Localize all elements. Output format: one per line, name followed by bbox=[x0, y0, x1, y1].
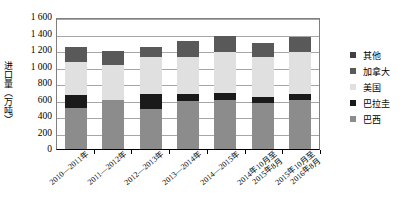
bar-segment[interactable] bbox=[289, 100, 311, 149]
legend-label: 加拿大 bbox=[363, 65, 390, 78]
x-axis-label-line: 2011—2012年 bbox=[86, 150, 128, 188]
legend-swatch-icon bbox=[350, 116, 356, 122]
x-axis-label-line: 2010—2011年 bbox=[48, 150, 90, 188]
stacked-bar[interactable] bbox=[140, 19, 162, 149]
legend-item[interactable]: 其他 bbox=[350, 47, 408, 63]
stacked-bar[interactable] bbox=[177, 19, 199, 149]
stacked-bar[interactable] bbox=[252, 19, 274, 149]
legend: 其他加拿大美国巴拉圭巴西 bbox=[350, 47, 408, 127]
y-axis-tick-label: 0 bbox=[47, 145, 52, 155]
bar-group bbox=[57, 19, 319, 149]
stacked-bar[interactable] bbox=[214, 19, 236, 149]
bar-segment[interactable] bbox=[65, 62, 87, 95]
x-axis-label-line: 2013—2014年 bbox=[161, 150, 204, 188]
legend-item[interactable]: 美国 bbox=[350, 79, 408, 95]
y-axis-tick-label: 400 bbox=[38, 112, 52, 122]
x-axis-tick-labels: 2010—2011年2011—2012年2012—2013年2013—2014年… bbox=[56, 150, 320, 213]
x-axis-tick-label: 2014—2015年 bbox=[199, 150, 242, 188]
bar-segment[interactable] bbox=[177, 41, 199, 57]
legend-swatch-icon bbox=[350, 84, 356, 90]
y-axis-tick-label: 1 000 bbox=[31, 63, 52, 73]
legend-swatch-icon bbox=[350, 100, 356, 106]
x-axis-label-line: 2012—2013年 bbox=[124, 150, 167, 188]
bar-segment[interactable] bbox=[214, 52, 236, 93]
y-axis-title: 进口量（万吨） bbox=[2, 34, 16, 150]
chart-container: 进口量（万吨） 1 6001 4001 2001 000800600400200… bbox=[0, 0, 409, 213]
y-axis-tick-label: 200 bbox=[38, 129, 52, 139]
x-axis-label-line: 2014—2015年 bbox=[199, 150, 242, 188]
stacked-bar[interactable] bbox=[102, 19, 124, 149]
bar-segment[interactable] bbox=[252, 43, 274, 58]
legend-swatch-icon bbox=[350, 68, 356, 74]
bar-segment[interactable] bbox=[252, 103, 274, 149]
bar-segment[interactable] bbox=[214, 93, 236, 100]
legend-swatch-icon bbox=[350, 52, 356, 58]
y-axis-tick-label: 800 bbox=[38, 79, 52, 89]
legend-label: 巴西 bbox=[363, 113, 381, 126]
bar-segment[interactable] bbox=[65, 95, 87, 108]
bar-segment[interactable] bbox=[65, 108, 87, 149]
x-axis-tick-label: 2011—2012年 bbox=[86, 150, 128, 188]
bar-segment[interactable] bbox=[214, 36, 236, 52]
y-axis-tick-label: 1 600 bbox=[31, 13, 52, 23]
bar-segment[interactable] bbox=[289, 52, 311, 93]
x-axis-tick-label: 2013—2014年 bbox=[161, 150, 204, 188]
bar-segment[interactable] bbox=[140, 47, 162, 56]
legend-label: 美国 bbox=[363, 81, 381, 94]
legend-item[interactable]: 巴拉圭 bbox=[350, 95, 408, 111]
bar-segment[interactable] bbox=[102, 51, 124, 65]
y-axis-tick-label: 1 400 bbox=[31, 30, 52, 40]
bar-segment[interactable] bbox=[289, 94, 311, 101]
y-axis-tick-labels: 1 6001 4001 2001 0008006004002000 bbox=[16, 18, 54, 150]
x-axis-tick-label: 2014年10月至2015年8月 bbox=[237, 150, 285, 195]
x-axis-tick-label: 2010—2011年 bbox=[48, 150, 90, 188]
bar-segment[interactable] bbox=[252, 57, 274, 97]
bar-segment[interactable] bbox=[140, 109, 162, 149]
bar-segment[interactable] bbox=[289, 37, 311, 53]
x-axis-tick-mark bbox=[320, 150, 321, 154]
bar-segment[interactable] bbox=[65, 47, 87, 62]
stacked-bar[interactable] bbox=[289, 19, 311, 149]
y-axis-tick-label: 600 bbox=[38, 96, 52, 106]
bar-segment[interactable] bbox=[102, 65, 124, 100]
stacked-bar[interactable] bbox=[65, 19, 87, 149]
bar-segment[interactable] bbox=[140, 57, 162, 94]
x-axis-tick-label: 2015年10月至2016年8月 bbox=[274, 150, 322, 195]
legend-label: 巴拉圭 bbox=[363, 97, 390, 110]
y-axis-tick-label: 1 200 bbox=[31, 46, 52, 56]
bar-segment[interactable] bbox=[140, 94, 162, 109]
legend-label: 其他 bbox=[363, 49, 381, 62]
legend-item[interactable]: 巴西 bbox=[350, 111, 408, 127]
x-axis-tick-label: 2012—2013年 bbox=[124, 150, 167, 188]
bar-segment[interactable] bbox=[102, 100, 124, 150]
plot-area bbox=[56, 18, 320, 150]
bar-segment[interactable] bbox=[177, 94, 199, 101]
bar-segment[interactable] bbox=[177, 101, 199, 149]
bar-segment[interactable] bbox=[177, 57, 199, 94]
legend-item[interactable]: 加拿大 bbox=[350, 63, 408, 79]
bar-segment[interactable] bbox=[214, 100, 236, 150]
